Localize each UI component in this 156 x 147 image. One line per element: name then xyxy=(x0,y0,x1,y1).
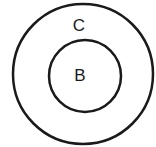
outer-set-label: C xyxy=(73,16,85,35)
venn-diagram: C B xyxy=(0,0,156,147)
inner-set-label: B xyxy=(74,66,85,85)
